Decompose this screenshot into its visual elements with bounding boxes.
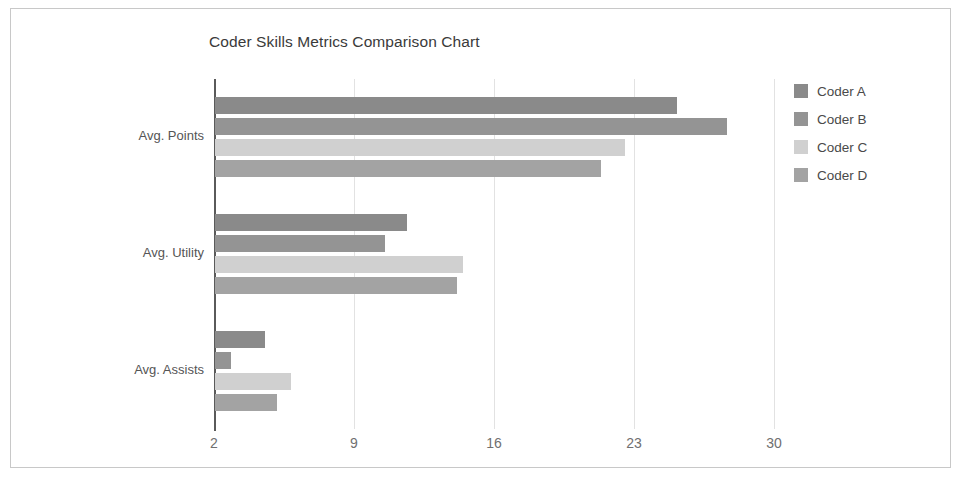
legend-item[interactable]: Coder A — [794, 79, 934, 103]
chart-title: Coder Skills Metrics Comparison Chart — [209, 33, 480, 51]
bar — [215, 373, 291, 390]
chart-container: Coder Skills Metrics Comparison Chart Av… — [10, 8, 951, 468]
y-axis-label: Avg. Assists — [134, 362, 204, 377]
legend-item-label: Coder C — [817, 140, 867, 155]
x-axis-tick-labels: 29162330 — [214, 435, 774, 463]
gridline — [774, 79, 775, 429]
y-axis-category-labels: Avg. PointsAvg. UtilityAvg. Assists — [71, 79, 204, 429]
legend-item-label: Coder D — [817, 168, 867, 183]
bar — [215, 277, 457, 294]
bar — [215, 160, 601, 177]
legend-item[interactable]: Coder B — [794, 107, 934, 131]
x-axis-tick-label: 23 — [626, 435, 642, 451]
bar — [215, 139, 625, 156]
legend-item-label: Coder B — [817, 112, 867, 127]
bar — [215, 394, 277, 411]
legend-swatch-icon — [794, 112, 808, 126]
chart-legend: Coder ACoder BCoder CCoder D — [794, 79, 934, 191]
legend-swatch-icon — [794, 140, 808, 154]
bar — [215, 97, 677, 114]
legend-item-label: Coder A — [817, 84, 866, 99]
x-axis-tick-label: 2 — [210, 435, 218, 451]
plot-area — [214, 79, 774, 429]
x-axis-tick-label: 9 — [350, 435, 358, 451]
bar — [215, 352, 231, 369]
bar — [215, 331, 265, 348]
y-axis-label: Avg. Points — [138, 128, 204, 143]
legend-item[interactable]: Coder D — [794, 163, 934, 187]
bar — [215, 235, 385, 252]
x-axis-tick-label: 16 — [486, 435, 502, 451]
legend-item[interactable]: Coder C — [794, 135, 934, 159]
bar — [215, 214, 407, 231]
x-axis-tick-label: 30 — [766, 435, 782, 451]
y-axis-label: Avg. Utility — [143, 245, 204, 260]
legend-swatch-icon — [794, 84, 808, 98]
bar — [215, 118, 727, 135]
legend-swatch-icon — [794, 168, 808, 182]
bar — [215, 256, 463, 273]
